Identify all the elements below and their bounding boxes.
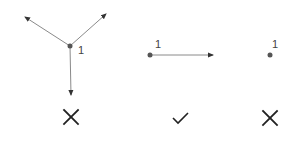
cross-icon xyxy=(64,110,78,124)
diagram-canvas: 1 1 1 xyxy=(0,0,297,143)
node-label: 1 xyxy=(155,38,161,50)
panel-no-edges: 1 xyxy=(263,38,278,125)
check-icon xyxy=(173,113,188,123)
node-label: 1 xyxy=(78,44,84,56)
edge-down xyxy=(70,46,71,95)
node xyxy=(148,53,153,58)
node xyxy=(68,44,73,49)
node xyxy=(268,53,273,58)
node-label: 1 xyxy=(272,38,278,50)
edge-up-left xyxy=(25,17,70,46)
panel-one-edge: 1 xyxy=(148,38,214,123)
cross-icon xyxy=(263,111,277,125)
panel-three-edges: 1 xyxy=(25,14,106,124)
edge-up-right xyxy=(70,14,106,46)
